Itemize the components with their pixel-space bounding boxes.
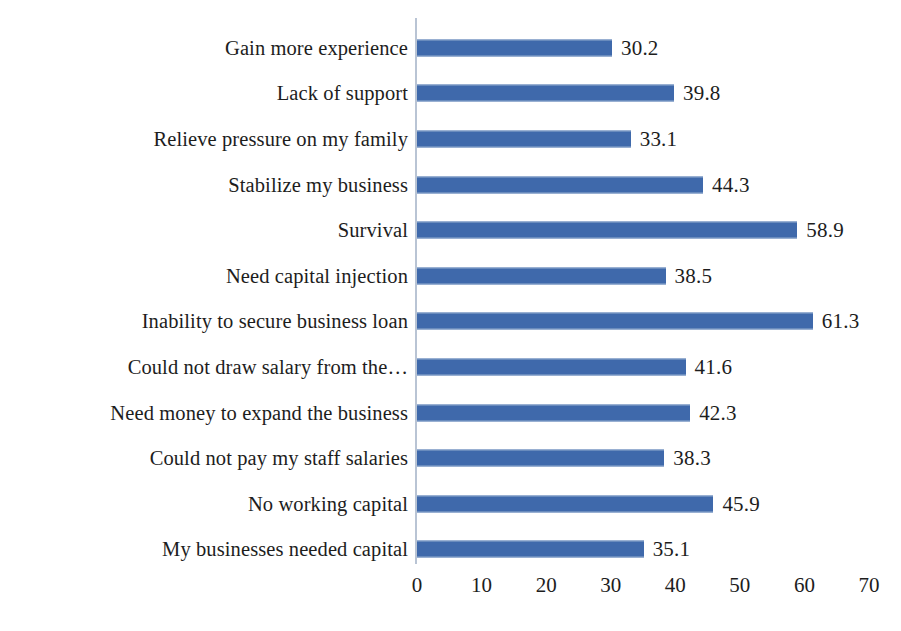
bar-row: Could not draw salary from the…41.6 xyxy=(0,344,901,390)
bar-row: Need money to expand the business42.3 xyxy=(0,390,901,436)
bar xyxy=(417,450,664,467)
category-label: Lack of support xyxy=(277,83,408,104)
bar xyxy=(417,176,703,193)
category-label: Need money to expand the business xyxy=(110,402,408,423)
category-label: Need capital injection xyxy=(226,266,408,287)
category-label: Could not pay my staff salaries xyxy=(150,448,408,469)
bar-value-label: 61.3 xyxy=(822,311,860,332)
bar-value-label: 38.3 xyxy=(673,448,711,469)
bar-row: Gain more experience30.2 xyxy=(0,25,901,71)
bar xyxy=(417,541,644,558)
category-label: No working capital xyxy=(248,494,408,515)
x-tick-label: 70 xyxy=(859,575,880,596)
bar xyxy=(417,495,713,512)
x-tick-label: 20 xyxy=(536,575,557,596)
bar-row: Lack of support39.8 xyxy=(0,71,901,117)
bar-value-label: 44.3 xyxy=(712,174,750,195)
bar xyxy=(417,313,813,330)
category-label: Inability to secure business loan xyxy=(142,311,408,332)
bar-row: Survival58.9 xyxy=(0,207,901,253)
category-label: Relieve pressure on my family xyxy=(153,129,408,150)
bar-row: My businesses needed capital35.1 xyxy=(0,527,901,573)
bar-row: Inability to secure business loan61.3 xyxy=(0,299,901,345)
bar-value-label: 33.1 xyxy=(640,128,678,149)
bar xyxy=(417,404,690,421)
bar xyxy=(417,222,797,239)
category-label: Stabilize my business xyxy=(228,174,408,195)
x-tick-label: 10 xyxy=(471,575,492,596)
bar-row: Could not pay my staff salaries38.3 xyxy=(0,435,901,481)
bar xyxy=(417,39,612,56)
bar-value-label: 41.6 xyxy=(695,356,733,377)
bar-chart: Gain more experience30.2Lack of support3… xyxy=(0,0,901,631)
category-label: Could not draw salary from the… xyxy=(128,357,408,378)
category-label: Gain more experience xyxy=(225,38,408,59)
bar xyxy=(417,358,686,375)
x-tick-label: 30 xyxy=(600,575,621,596)
bar-value-label: 30.2 xyxy=(621,37,659,58)
bar-value-label: 35.1 xyxy=(653,539,691,560)
x-tick-label: 40 xyxy=(665,575,686,596)
bar-value-label: 45.9 xyxy=(722,493,760,514)
plot-area: Gain more experience30.2Lack of support3… xyxy=(0,0,901,631)
bar-value-label: 39.8 xyxy=(683,83,721,104)
bar-row: Stabilize my business44.3 xyxy=(0,162,901,208)
bar-value-label: 42.3 xyxy=(699,402,737,423)
category-label: Survival xyxy=(338,220,408,241)
category-label: My businesses needed capital xyxy=(162,539,408,560)
bar-value-label: 38.5 xyxy=(675,265,713,286)
x-tick-label: 0 xyxy=(412,575,423,596)
bar xyxy=(417,267,666,284)
bar xyxy=(417,130,631,147)
x-tick-label: 50 xyxy=(729,575,750,596)
bar-row: No working capital45.9 xyxy=(0,481,901,527)
bar-value-label: 58.9 xyxy=(806,220,844,241)
bar-row: Relieve pressure on my family33.1 xyxy=(0,116,901,162)
x-tick-label: 60 xyxy=(794,575,815,596)
x-axis-tick-labels: 010203040506070 xyxy=(0,575,901,615)
bar xyxy=(417,85,674,102)
bar-row: Need capital injection38.5 xyxy=(0,253,901,299)
